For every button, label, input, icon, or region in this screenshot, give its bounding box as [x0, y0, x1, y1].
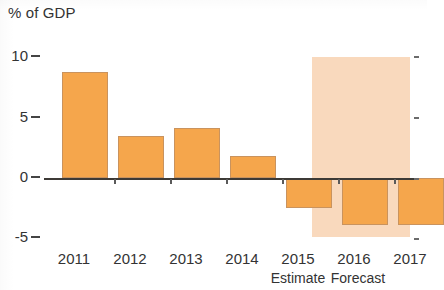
zero-baseline [44, 178, 416, 180]
x-tick-3 [226, 179, 228, 184]
x-label-2014: 2014 [212, 250, 272, 267]
y-tick-10-dash [31, 55, 40, 57]
y-tick-0: 0 [0, 168, 40, 185]
x-tick-2 [170, 179, 172, 184]
x-tick-5 [338, 179, 340, 184]
x-label-2013: 2013 [156, 250, 216, 267]
right-tick-10 [414, 56, 419, 58]
y-tick-0-dash [31, 176, 40, 178]
y-tick-10-label: 10 [11, 47, 28, 64]
x-tick-1 [114, 179, 116, 184]
bar-2012 [118, 136, 164, 178]
bar-2011 [62, 72, 108, 178]
bar-2015 [286, 178, 332, 208]
y-tick-minus5-label: -5 [15, 228, 28, 245]
y-tick-5-label: 5 [20, 108, 28, 125]
x-tick-6 [394, 179, 396, 184]
right-tick-minus5 [414, 238, 419, 240]
x-note-forecast: Forecast [316, 270, 400, 286]
x-label-2012: 2012 [100, 250, 160, 267]
x-label-2016: 2016 [324, 250, 384, 267]
x-label-2011: 2011 [44, 250, 104, 267]
y-tick-minus5: -5 [0, 228, 40, 245]
bar-2017 [398, 178, 444, 225]
x-tick-4 [282, 179, 284, 184]
right-tick-5 [414, 117, 419, 119]
x-label-2017: 2017 [380, 250, 440, 267]
y-tick-5: 5 [0, 108, 40, 125]
y-tick-5-dash [31, 116, 40, 118]
plot-area [48, 50, 416, 246]
right-tick-0 [414, 178, 419, 180]
y-tick-minus5-dash [31, 236, 40, 238]
y-tick-10: 10 [0, 47, 40, 64]
bar-2014 [230, 156, 276, 178]
x-label-2015: 2015 [268, 250, 328, 267]
bar-2013 [174, 128, 220, 178]
y-axis-title: % of GDP [8, 4, 76, 21]
bar-2016 [342, 178, 388, 225]
y-tick-0-label: 0 [20, 168, 28, 185]
